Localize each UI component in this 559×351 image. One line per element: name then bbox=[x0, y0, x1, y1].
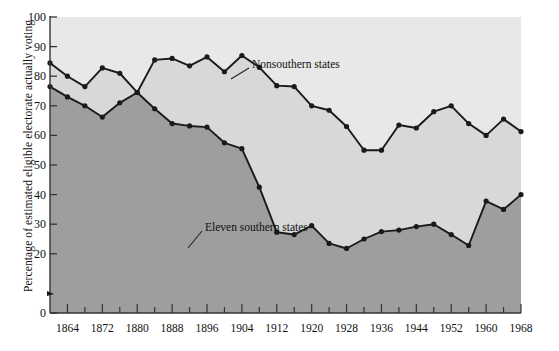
data-point bbox=[152, 57, 157, 62]
data-point bbox=[152, 106, 157, 111]
data-point bbox=[117, 100, 122, 105]
data-point bbox=[239, 53, 244, 58]
data-point bbox=[117, 71, 122, 76]
plot-area bbox=[0, 0, 559, 351]
data-point bbox=[100, 65, 105, 70]
data-point bbox=[466, 243, 471, 248]
data-point bbox=[414, 224, 419, 229]
data-point bbox=[414, 125, 419, 130]
data-point bbox=[82, 103, 87, 108]
voter-turnout-chart: Percentage of estimated eligible elector… bbox=[0, 0, 559, 351]
series-label-nonsouthern: Nonsouthern states bbox=[252, 58, 340, 70]
data-point bbox=[431, 222, 436, 227]
data-point bbox=[361, 236, 366, 241]
data-point bbox=[82, 84, 87, 89]
data-point bbox=[501, 207, 506, 212]
data-point bbox=[170, 56, 175, 61]
data-point bbox=[327, 241, 332, 246]
data-point bbox=[344, 124, 349, 129]
data-point bbox=[239, 146, 244, 151]
data-point bbox=[257, 185, 262, 190]
data-point bbox=[379, 148, 384, 153]
data-point bbox=[222, 140, 227, 145]
data-point bbox=[187, 63, 192, 68]
data-point bbox=[501, 117, 506, 122]
data-point bbox=[170, 121, 175, 126]
data-point bbox=[396, 228, 401, 233]
data-point bbox=[518, 192, 523, 197]
data-point bbox=[65, 94, 70, 99]
data-point bbox=[518, 129, 523, 134]
data-point bbox=[361, 148, 366, 153]
data-point bbox=[431, 109, 436, 114]
data-point bbox=[65, 74, 70, 79]
data-point bbox=[204, 54, 209, 59]
data-point bbox=[327, 108, 332, 113]
data-point bbox=[484, 199, 489, 204]
series-label-eleven-southern: Eleven southern states bbox=[205, 221, 308, 233]
data-point bbox=[274, 83, 279, 88]
data-point bbox=[449, 232, 454, 237]
data-point bbox=[396, 122, 401, 127]
data-point bbox=[187, 123, 192, 128]
data-point bbox=[309, 103, 314, 108]
data-point bbox=[100, 114, 105, 119]
data-point bbox=[379, 229, 384, 234]
data-point bbox=[309, 223, 314, 228]
data-point bbox=[135, 90, 140, 95]
data-point bbox=[292, 84, 297, 89]
data-point bbox=[204, 125, 209, 130]
data-point bbox=[222, 69, 227, 74]
data-point bbox=[484, 133, 489, 138]
data-point bbox=[344, 246, 349, 251]
data-point bbox=[449, 103, 454, 108]
data-point bbox=[466, 121, 471, 126]
